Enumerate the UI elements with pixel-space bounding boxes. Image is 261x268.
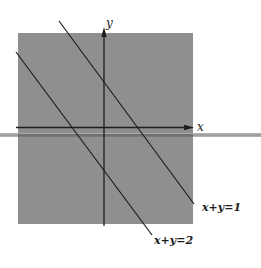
line-1-label: x+y=1 xyxy=(201,201,241,214)
stray-line-shadow-in-region xyxy=(18,134,193,137)
x-axis-label: x xyxy=(197,120,204,134)
diagram-canvas: x y x+y=1 x+y=2 xyxy=(0,0,261,268)
y-axis-label: y xyxy=(105,16,113,30)
line-2-label: x+y=2 xyxy=(153,234,193,247)
shaded-region xyxy=(18,33,193,224)
